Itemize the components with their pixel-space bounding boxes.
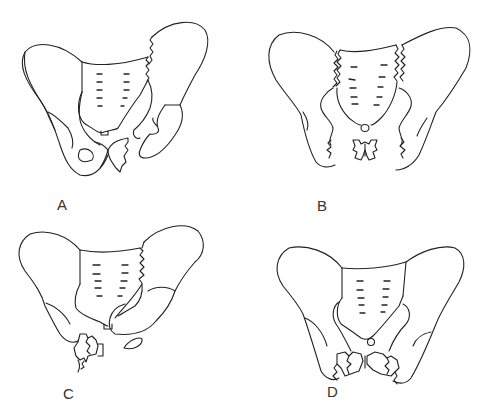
pelvis-diagram-a [0, 0, 241, 206]
panel-b: B [241, 0, 482, 206]
pelvis-diagram-d [241, 206, 482, 412]
panel-c: C [0, 206, 241, 412]
panel-label-c: C [63, 385, 74, 402]
pelvis-diagram-b [241, 0, 482, 206]
panel-d: D [241, 206, 482, 412]
pelvis-diagram-c [0, 206, 241, 412]
panel-a: A [0, 0, 241, 206]
panel-label-d: D [327, 383, 338, 400]
